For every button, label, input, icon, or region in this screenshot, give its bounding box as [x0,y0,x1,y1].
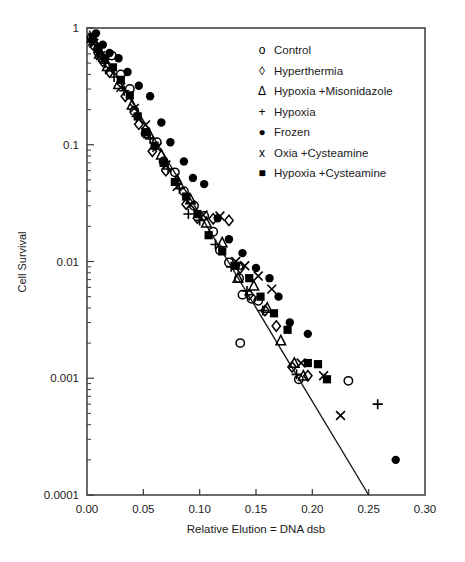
cell-survival-chart: 10.10.010.0010.0001 0.000.050.100.150.20… [0,0,465,562]
chart-background [0,0,465,562]
x-tick-label: 0.05 [132,503,154,515]
x-tick-label: 0.15 [245,503,267,515]
y-tick-label: 1 [73,22,79,34]
y-tick-label: 0.1 [63,139,79,151]
legend-marker-icon: o [259,43,266,57]
x-tick-label: 0.00 [76,503,98,515]
legend-label: Hypoxia +Cysteamine [274,167,386,179]
y-tick-label: 0.001 [50,372,79,384]
legend-item-oxia-cysteamine: xOxia +Cysteamine [259,146,368,160]
legend-label: Control [274,44,311,56]
legend-marker-icon: x [259,146,265,160]
legend-label: Hypoxia [274,106,316,118]
legend-label: Hypoxia +Misonidazole [274,85,393,97]
legend-marker-icon: ◊ [259,64,265,78]
legend-marker-icon: + [258,105,265,119]
legend-marker-icon: ■ [258,166,265,180]
x-tick-label: 0.20 [301,503,323,515]
legend-marker-icon: Δ [258,84,266,98]
legend-marker-icon: ● [258,125,265,139]
legend-label: Hyperthermia [274,65,344,77]
legend-label: Oxia +Cysteamine [274,147,368,159]
x-tick-label: 0.10 [188,503,210,515]
legend-label: Frozen [274,126,310,138]
legend-item-hypoxia-cysteamine: ■Hypoxia +Cysteamine [258,166,386,180]
y-tick-label: 0.01 [57,256,79,268]
y-axis-title: Cell Survival [16,231,28,292]
legend-item-hypoxia-misonidazole: ΔHypoxia +Misonidazole [258,84,393,98]
y-tick-label: 0.0001 [44,489,79,501]
x-axis-title: Relative Elution = DNA dsb [187,523,325,535]
x-tick-label: 0.25 [357,503,379,515]
x-tick-label: 0.30 [414,503,436,515]
